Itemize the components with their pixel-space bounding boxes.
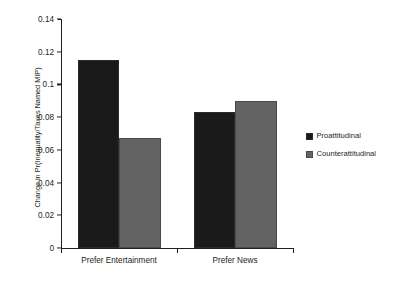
- y-tick-mark: [57, 149, 61, 150]
- square-swatch-icon: [306, 151, 313, 158]
- y-tick-label: 0.12: [28, 47, 54, 56]
- legend-item: Counterattitudinal: [306, 149, 376, 159]
- y-tick-label: 0.06: [28, 145, 54, 154]
- y-tick-label: 0.1: [28, 80, 54, 89]
- chart-legend: ProattitudinalCounterattitudinal: [306, 131, 376, 167]
- y-tick-mark: [57, 51, 61, 52]
- legend-item-label: Counterattitudinal: [317, 150, 377, 158]
- legend-item: Proattitudinal: [306, 131, 376, 141]
- y-tick-mark: [57, 182, 61, 183]
- bar-proattitudinal-prefer-news: [194, 112, 236, 248]
- y-tick-mark: [57, 18, 61, 19]
- y-tick-label: 0: [28, 244, 54, 253]
- y-tick-mark: [57, 215, 61, 216]
- x-tick-mark: [61, 248, 62, 253]
- x-tick-label: Prefer News: [212, 256, 257, 265]
- y-axis-tick-labels: 00.020.040.060.080.10.120.14: [28, 0, 54, 287]
- y-tick-mark: [57, 84, 61, 85]
- bar-counterattitudinal-prefer-news: [235, 101, 277, 248]
- bar-chart-figure: Change in Pr(Inequality/Taxes Named MIP)…: [0, 0, 401, 287]
- y-tick-label: 0.04: [28, 178, 54, 187]
- y-tick-label: 0.08: [28, 113, 54, 122]
- x-tick-label: Prefer Entertainment: [81, 256, 157, 265]
- y-tick-label: 0.02: [28, 211, 54, 220]
- bar-proattitudinal-prefer-entertainment: [78, 60, 120, 248]
- plot-area: [61, 19, 293, 248]
- y-tick-mark: [57, 117, 61, 118]
- bar-counterattitudinal-prefer-entertainment: [119, 138, 161, 248]
- legend-item-label: Proattitudinal: [317, 132, 361, 140]
- x-tick-mark: [293, 248, 294, 253]
- x-tick-mark: [177, 248, 178, 253]
- square-swatch-icon: [306, 133, 313, 140]
- y-tick-label: 0.14: [28, 15, 54, 24]
